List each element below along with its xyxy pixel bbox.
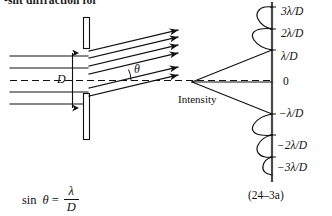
barrier-bar-upper [84, 18, 90, 49]
formula-denominator: D [64, 201, 79, 214]
axis-label-lambda-over-d: λ/D [281, 51, 297, 63]
formula-equals-sign: = [52, 193, 61, 208]
figure-page: -slit diffraction for [0, 0, 332, 216]
intensity-axis-label: Intensity [178, 94, 217, 105]
barrier-bar-lower [84, 94, 90, 140]
formula-numerator: λ [66, 185, 77, 198]
axis-label-negative-lambda-over-d: −λ/D [279, 108, 303, 120]
intensity-curve-side-lobes [252, 7, 272, 175]
theta-angle-label: θ [134, 63, 140, 75]
diffraction-formula: sin θ = λ D [22, 186, 79, 215]
axis-label-negative-3-lambda-over-d: −3λ/D [277, 162, 307, 174]
equation-reference-number: (24–3a) [248, 190, 284, 202]
formula-theta-variable: θ [40, 193, 49, 208]
axis-label-negative-2-lambda-over-d: −2λ/D [277, 140, 307, 152]
formula-fraction: λ D [64, 185, 79, 214]
formula-sin-function: sin [22, 193, 37, 208]
axis-label-2-lambda-over-d: 2λ/D [281, 28, 303, 40]
axis-label-zero: 0 [283, 76, 289, 88]
slit-width-label: D [57, 73, 66, 85]
slit-barrier [84, 18, 90, 140]
axis-label-3-lambda-over-d: 3λ/D [281, 6, 303, 18]
